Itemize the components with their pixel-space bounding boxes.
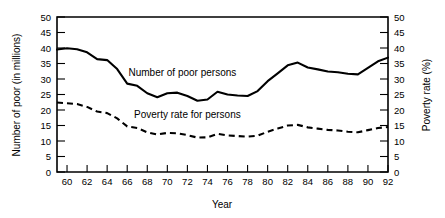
x-tick-label: 74 xyxy=(202,176,213,187)
y-left-tick-label: 50 xyxy=(40,12,51,23)
y-left-tick-label: 40 xyxy=(40,43,51,54)
y-axis-right-title: Poverty rate (%) xyxy=(421,59,432,131)
y-right-tick-label: 5 xyxy=(394,151,399,162)
x-tick-label: 88 xyxy=(343,176,354,187)
y-left-tick-label: 20 xyxy=(40,105,51,116)
y-right-tick-label: 45 xyxy=(394,27,405,38)
x-tick-label: 86 xyxy=(323,176,334,187)
y-left-tick-label: 45 xyxy=(40,27,51,38)
x-tick-label: 80 xyxy=(262,176,273,187)
y-left-tick-label: 15 xyxy=(40,120,51,131)
plot-frame xyxy=(57,17,388,172)
x-tick-label: 84 xyxy=(302,176,313,187)
series-annotation-2: Poverty rate for persons xyxy=(134,109,241,120)
x-axis-tick-labels: 6062646668707274767880828486889092 xyxy=(62,176,394,187)
series-annotation-1: Number of poor persons xyxy=(128,67,236,78)
y-axis-left-title: Number of poor (in millions) xyxy=(11,34,22,157)
y-right-tick-label: 20 xyxy=(394,105,405,116)
y-left-tick-label: 30 xyxy=(40,74,51,85)
x-tick-label: 78 xyxy=(242,176,253,187)
x-tick-label: 64 xyxy=(102,176,113,187)
y-left-tick-label: 35 xyxy=(40,58,51,69)
y-right-tick-label: 50 xyxy=(394,12,405,23)
line-chart: 6062646668707274767880828486889092 05101… xyxy=(0,0,445,218)
y-left-tick-label: 5 xyxy=(46,151,51,162)
x-tick-label: 92 xyxy=(383,176,394,187)
y-left-tick-label: 10 xyxy=(40,136,51,147)
y-left-tick-label: 25 xyxy=(40,89,51,100)
x-tick-label: 66 xyxy=(122,176,133,187)
y-axis-left-ticks xyxy=(57,17,65,172)
y-right-tick-label: 35 xyxy=(394,58,405,69)
y-right-tick-label: 40 xyxy=(394,43,405,54)
y-right-tick-label: 25 xyxy=(394,89,405,100)
y-axis-right-tick-labels: 05101520253035404550 xyxy=(394,12,405,178)
x-tick-label: 90 xyxy=(363,176,374,187)
y-axis-left-tick-labels: 05101520253035404550 xyxy=(40,12,51,178)
x-tick-label: 68 xyxy=(142,176,153,187)
y-axis-right-ticks xyxy=(380,17,388,172)
x-tick-label: 76 xyxy=(222,176,233,187)
x-tick-label: 62 xyxy=(82,176,93,187)
y-right-tick-label: 30 xyxy=(394,74,405,85)
x-axis-title: Year xyxy=(212,199,233,210)
x-tick-label: 60 xyxy=(62,176,73,187)
y-right-tick-label: 10 xyxy=(394,136,405,147)
series-paths xyxy=(57,48,388,137)
y-left-tick-label: 0 xyxy=(46,167,51,178)
y-right-tick-label: 0 xyxy=(394,167,399,178)
x-tick-label: 72 xyxy=(182,176,193,187)
x-tick-label: 70 xyxy=(162,176,173,187)
x-tick-label: 82 xyxy=(282,176,293,187)
chart-figure: 6062646668707274767880828486889092 05101… xyxy=(0,0,445,218)
y-right-tick-label: 15 xyxy=(394,120,405,131)
x-axis-ticks xyxy=(67,165,388,172)
